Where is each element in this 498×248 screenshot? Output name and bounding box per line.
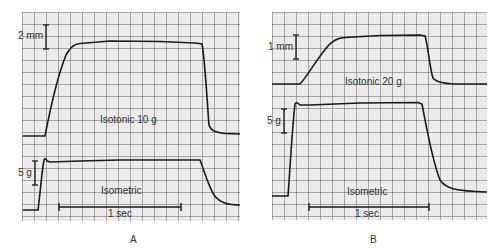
trace-label-isotonic-20g: Isotonic 20 g	[345, 76, 402, 87]
scale-bar-5g-b	[281, 109, 287, 133]
panel-letter-b: B	[370, 234, 377, 245]
time-label-b: 1 sec	[355, 208, 379, 219]
panel-letter-a: A	[130, 234, 137, 245]
scale-label-5g-b: 5 g	[267, 115, 281, 126]
scale-bar-2mm	[43, 25, 49, 49]
trace-label-isotonic-10g: Isotonic 10 g	[100, 114, 157, 125]
scale-bar-5g-a	[32, 161, 38, 185]
time-label-a: 1 sec	[108, 208, 132, 219]
scale-bar-1mm	[293, 35, 299, 59]
scale-label-5g-a: 5 g	[18, 167, 32, 178]
trace-label-isometric-a: Isometric	[101, 185, 142, 196]
panel-a: 2 mm Isotonic 10 g 5 g Isometric 1 sec A	[0, 0, 250, 248]
scale-label-2mm: 2 mm	[18, 30, 43, 41]
scale-label-1mm: 1 mm	[268, 41, 293, 52]
panel-b: 1 mm Isotonic 20 g 5 g Isometric 1 sec B	[250, 0, 498, 248]
trace-label-isometric-b: Isometric	[347, 186, 388, 197]
isometric-trace-b	[272, 103, 487, 197]
